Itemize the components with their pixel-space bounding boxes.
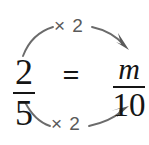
right-fraction-denominator: 10 bbox=[110, 89, 148, 123]
top-multiplier-label: × 2 bbox=[54, 16, 84, 35]
left-fraction: 2 5 bbox=[8, 54, 40, 131]
bottom-multiplier-label: × 2 bbox=[51, 114, 81, 133]
equivalent-fraction-diagram: × 2 2 5 = m 10 × 2 bbox=[0, 0, 149, 145]
right-fraction: m 10 bbox=[110, 54, 148, 122]
left-fraction-numerator: 2 bbox=[8, 54, 40, 91]
left-fraction-denominator: 5 bbox=[8, 95, 40, 132]
equals-sign: = bbox=[57, 60, 85, 90]
right-fraction-numerator: m bbox=[110, 54, 148, 85]
